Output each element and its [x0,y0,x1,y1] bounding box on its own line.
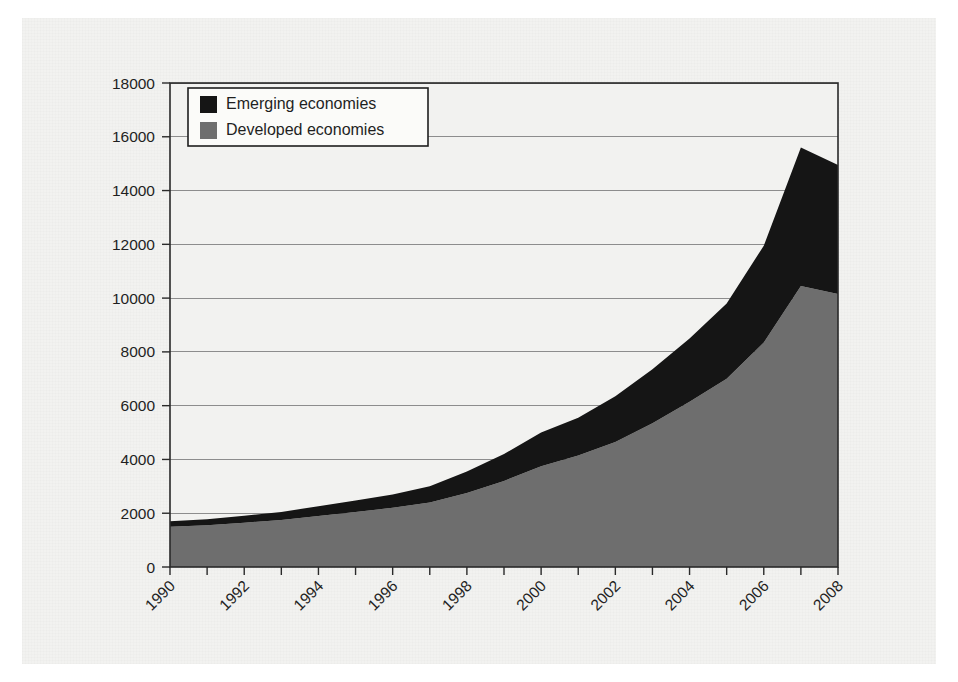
y-tick-label-10000: 10000 [112,290,155,307]
x-tick-label-2000: 2000 [513,577,550,614]
x-tick-label-1990: 1990 [142,577,179,614]
y-tick-label-16000: 16000 [112,128,155,145]
chart-legend: Emerging economiesDeveloped economies [188,88,428,146]
x-tick-label-1998: 1998 [439,577,475,613]
x-axis-ticks: 1990199219941996199820002002200420062008 [142,567,846,614]
y-tick-label-2000: 2000 [121,505,156,522]
x-tick-label-1992: 1992 [216,577,252,613]
x-tick-label-1994: 1994 [290,577,327,614]
legend-developed-swatch [200,122,217,139]
y-tick-label-12000: 12000 [112,236,155,253]
x-tick-label-2008: 2008 [810,577,846,613]
y-tick-label-0: 0 [146,559,155,576]
y-tick-label-18000: 18000 [112,75,155,92]
x-tick-label-2006: 2006 [735,577,771,613]
x-tick-label-2002: 2002 [587,577,623,613]
y-tick-label-4000: 4000 [121,451,156,468]
y-tick-label-14000: 14000 [112,182,155,199]
x-tick-label-1996: 1996 [364,577,400,613]
chart-figure: 0200040006000800010000120001400016000180… [0,0,958,682]
legend-label-emerging-economies: Emerging economies [226,95,376,112]
y-tick-label-8000: 8000 [121,343,156,360]
stacked-area-chart: 0200040006000800010000120001400016000180… [0,0,958,682]
y-tick-label-6000: 6000 [121,397,156,414]
x-tick-label-2004: 2004 [661,577,698,614]
legend-emerging-swatch [200,96,217,113]
legend-label-developed-economies: Developed economies [226,121,384,138]
y-axis-ticks: 0200040006000800010000120001400016000180… [112,75,170,576]
